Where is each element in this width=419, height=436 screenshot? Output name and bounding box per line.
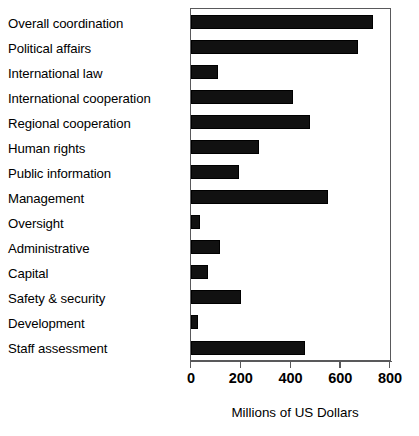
category-label-international-cooperation: International cooperation bbox=[8, 92, 151, 106]
bar-management bbox=[191, 190, 328, 204]
category-label-safety-and-security: Safety & security bbox=[8, 292, 105, 306]
bar-row bbox=[191, 34, 390, 59]
category-label-political-affairs: Political affairs bbox=[8, 42, 91, 56]
bar-row bbox=[191, 310, 390, 335]
category-label-row: Safety & security bbox=[0, 286, 184, 311]
category-label-administrative: Administrative bbox=[8, 242, 89, 256]
x-axis-tick bbox=[389, 361, 390, 368]
bar-development bbox=[191, 315, 198, 329]
x-axis-tick-label: 600 bbox=[328, 370, 352, 386]
bar-political-affairs bbox=[191, 40, 358, 54]
category-axis-labels: Overall coordination Political affairs I… bbox=[0, 11, 184, 361]
x-axis-title: Millions of US Dollars bbox=[190, 405, 400, 420]
category-label-overall-coordination: Overall coordination bbox=[8, 17, 123, 31]
bar-row bbox=[191, 260, 390, 285]
bar-staff-assessment bbox=[191, 341, 305, 355]
bar-public-information bbox=[191, 165, 239, 179]
x-axis-tick-label: 800 bbox=[378, 370, 402, 386]
bar-international-law bbox=[191, 65, 218, 79]
category-label-human-rights: Human rights bbox=[8, 142, 85, 156]
category-label-row: Management bbox=[0, 186, 184, 211]
category-label-row: Political affairs bbox=[0, 36, 184, 61]
bar-row bbox=[191, 84, 390, 109]
category-label-management: Management bbox=[8, 192, 84, 206]
bar-international-cooperation bbox=[191, 90, 293, 104]
category-label-row: Capital bbox=[0, 261, 184, 286]
x-axis-tick-label: 0 bbox=[187, 370, 195, 386]
bar-row bbox=[191, 59, 390, 84]
x-axis-tick-label: 400 bbox=[278, 370, 302, 386]
bar-administrative bbox=[191, 240, 220, 254]
category-label-row: Administrative bbox=[0, 236, 184, 261]
bar-row bbox=[191, 9, 390, 34]
bar-chart: Overall coordination Political affairs I… bbox=[0, 0, 419, 436]
category-label-staff-assessment: Staff assessment bbox=[8, 342, 107, 356]
bar-row bbox=[191, 335, 390, 360]
bar-row bbox=[191, 109, 390, 134]
category-label-public-information: Public information bbox=[8, 167, 111, 181]
bar-row bbox=[191, 134, 390, 159]
category-label-row: Human rights bbox=[0, 136, 184, 161]
x-axis-tick-label: 200 bbox=[229, 370, 253, 386]
category-label-row: Overall coordination bbox=[0, 11, 184, 36]
bar-regional-cooperation bbox=[191, 115, 310, 129]
bar-safety-and-security bbox=[191, 290, 241, 304]
bar-row bbox=[191, 210, 390, 235]
category-label-international-law: International law bbox=[8, 67, 102, 81]
x-axis-tick bbox=[240, 361, 241, 368]
bar-human-rights bbox=[191, 140, 259, 154]
category-label-row: International law bbox=[0, 61, 184, 86]
category-label-development: Development bbox=[8, 317, 85, 331]
category-label-row: Staff assessment bbox=[0, 336, 184, 361]
category-label-regional-cooperation: Regional cooperation bbox=[8, 117, 131, 131]
bar-row bbox=[191, 235, 390, 260]
bar-row bbox=[191, 185, 390, 210]
bar-row bbox=[191, 159, 390, 184]
bar-capital bbox=[191, 265, 208, 279]
category-label-row: Oversight bbox=[0, 211, 184, 236]
category-label-oversight: Oversight bbox=[8, 217, 64, 231]
category-label-row: Regional cooperation bbox=[0, 111, 184, 136]
bar-row bbox=[191, 285, 390, 310]
category-label-row: International cooperation bbox=[0, 86, 184, 111]
bar-oversight bbox=[191, 215, 200, 229]
x-axis-tick bbox=[290, 361, 291, 368]
x-axis-line bbox=[190, 361, 392, 362]
x-axis-tick bbox=[339, 361, 340, 368]
bars-layer bbox=[191, 9, 390, 360]
category-label-row: Development bbox=[0, 311, 184, 336]
category-label-capital: Capital bbox=[8, 267, 48, 281]
x-axis-tick bbox=[190, 361, 191, 368]
category-label-row: Public information bbox=[0, 161, 184, 186]
bar-overall-coordination bbox=[191, 15, 373, 29]
